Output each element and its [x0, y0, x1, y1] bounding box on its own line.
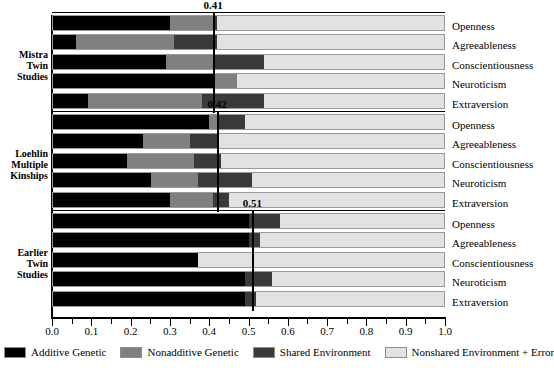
bar-segment-3 — [237, 74, 444, 88]
legend-item-0[interactable]: Additive Genetic — [4, 346, 106, 358]
bar-segment-1 — [213, 74, 236, 88]
bar-agreeableness — [52, 133, 445, 149]
legend-swatch-icon — [253, 347, 275, 358]
bar-segment-0 — [53, 55, 166, 69]
trait-label-conscientiousness: Conscientiousness — [452, 158, 533, 170]
trait-label-conscientiousness: Conscientiousness — [452, 59, 533, 71]
bar-extraversion — [52, 93, 445, 109]
trait-label-agreeableness: Agreeableness — [452, 237, 516, 249]
group-label-line: Twin — [0, 60, 48, 71]
x-tick-label-0.5: 0.5 — [229, 325, 269, 337]
bar-segment-0 — [53, 74, 213, 88]
group-label-line: Multiple — [0, 159, 48, 170]
bar-segment-3 — [252, 173, 444, 187]
legend-item-3[interactable]: Nonshared Environment + Error — [385, 346, 554, 358]
bar-segment-0 — [53, 214, 249, 228]
bar-segment-1 — [170, 193, 213, 207]
group-label-1: LoehlinMultipleKinships — [0, 148, 48, 181]
bar-agreeableness — [52, 34, 445, 50]
trait-label-extraversion: Extraversion — [452, 98, 508, 110]
bar-openness — [52, 114, 445, 130]
legend-item-2[interactable]: Shared Environment — [253, 346, 371, 358]
bar-segment-3 — [217, 35, 444, 49]
legend-label: Nonadditive Genetic — [147, 346, 238, 358]
bar-segment-2 — [245, 292, 257, 306]
bar-extraversion — [52, 291, 445, 307]
bar-segment-1 — [143, 134, 190, 148]
legend-label: Nonshared Environment + Error — [412, 346, 554, 358]
x-tick-label-0.4: 0.4 — [189, 325, 229, 337]
legend-label: Shared Environment — [280, 346, 371, 358]
plot-area — [52, 15, 445, 318]
mean-line-0.51 — [252, 210, 254, 311]
x-tick-label-1.0: 1.0 — [425, 325, 465, 337]
bar-segment-2 — [213, 55, 264, 69]
group-separator — [52, 12, 445, 13]
bar-openness — [52, 15, 445, 31]
legend-swatch-icon — [120, 347, 142, 358]
legend-swatch-icon — [385, 347, 407, 358]
bar-segment-0 — [53, 94, 88, 108]
x-tick-label-0.0: 0.0 — [32, 325, 72, 337]
bar-segment-0 — [53, 233, 249, 247]
bar-segment-0 — [53, 173, 151, 187]
x-tick-label-0.1: 0.1 — [71, 325, 111, 337]
x-minor-tick — [111, 319, 112, 324]
bar-neuroticism — [52, 73, 445, 89]
bar-segment-3 — [272, 272, 444, 286]
bar-segment-0 — [53, 134, 143, 148]
trait-label-conscientiousness: Conscientiousness — [452, 257, 533, 269]
bar-segment-3 — [280, 214, 444, 228]
legend-label: Additive Genetic — [31, 346, 106, 358]
bar-segment-2 — [190, 134, 217, 148]
group-label-line: Twin — [0, 258, 48, 269]
x-tick-label-0.2: 0.2 — [111, 325, 151, 337]
bar-segment-2 — [213, 193, 229, 207]
mean-value-label: 0.51 — [232, 197, 272, 209]
x-minor-tick — [268, 319, 269, 324]
bar-segment-0 — [53, 16, 170, 30]
bar-segment-1 — [209, 115, 217, 129]
bar-segment-2 — [174, 35, 217, 49]
legend-swatch-icon — [4, 347, 26, 358]
bar-segment-0 — [53, 193, 170, 207]
group-separator — [52, 210, 445, 211]
bar-segment-3 — [221, 154, 444, 168]
bar-segment-1 — [88, 94, 201, 108]
trait-label-agreeableness: Agreeableness — [452, 39, 516, 51]
mean-value-label: 0.42 — [197, 98, 237, 110]
bar-segment-0 — [53, 272, 245, 286]
x-minor-tick — [190, 319, 191, 324]
group-label-line: Mistra — [0, 49, 48, 60]
bar-segment-1 — [127, 154, 193, 168]
x-tick-label-0.3: 0.3 — [150, 325, 190, 337]
bar-conscientiousness — [52, 54, 445, 70]
bar-segment-3 — [217, 16, 444, 30]
trait-label-neuroticism: Neuroticism — [452, 177, 506, 189]
x-tick-label-0.8: 0.8 — [346, 325, 386, 337]
x-tick-label-0.6: 0.6 — [268, 325, 308, 337]
bar-segment-0 — [53, 292, 245, 306]
bar-segment-0 — [53, 35, 76, 49]
bar-conscientiousness — [52, 153, 445, 169]
x-minor-tick — [386, 319, 387, 324]
group-label-line: Kinships — [0, 170, 48, 181]
group-label-line: Studies — [0, 269, 48, 280]
bar-segment-0 — [53, 253, 198, 267]
bar-segment-1 — [76, 35, 174, 49]
bar-segment-2 — [217, 115, 244, 129]
trait-label-openness: Openness — [452, 218, 495, 230]
bar-segment-3 — [217, 134, 444, 148]
x-tick-label-0.9: 0.9 — [386, 325, 426, 337]
group-separator — [52, 111, 445, 112]
x-minor-tick — [150, 319, 151, 324]
bar-segment-2 — [198, 173, 253, 187]
bar-neuroticism — [52, 172, 445, 188]
group-label-line: Earlier — [0, 247, 48, 258]
bar-openness — [52, 213, 445, 229]
mean-line-0.42 — [217, 111, 219, 212]
bar-segment-3 — [264, 55, 444, 69]
legend-item-1[interactable]: Nonadditive Genetic — [120, 346, 238, 358]
trait-label-extraversion: Extraversion — [452, 197, 508, 209]
